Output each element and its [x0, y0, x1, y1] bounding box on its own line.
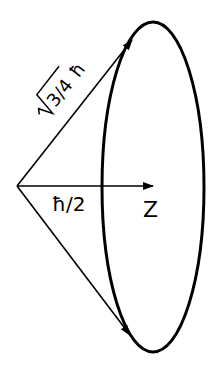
magnitude-label: 3/4 ħ [28, 55, 89, 122]
precession-ellipse [102, 22, 204, 352]
z-axis-label: Z [143, 197, 158, 222]
spin-cone-diagram: 3/4 ħ ħ/2 Z [0, 0, 220, 372]
projection-label: ħ/2 [52, 192, 85, 216]
hbar-symbol: ħ [65, 59, 89, 82]
